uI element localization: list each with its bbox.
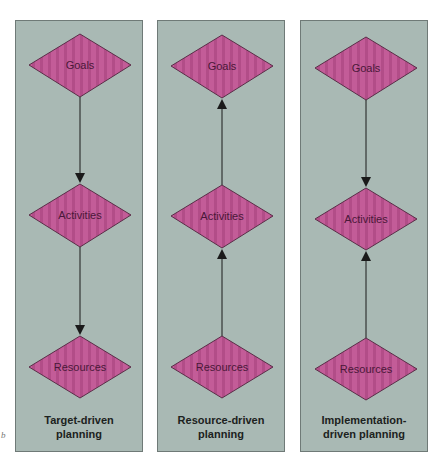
node-activities: Activities	[29, 209, 131, 222]
node-activities: Activities	[315, 213, 417, 226]
caption-line-1: Target-driven	[16, 413, 142, 427]
node-goals: Goals	[171, 60, 273, 73]
node-goals: Goals	[29, 59, 131, 72]
node-goals: Goals	[315, 62, 417, 75]
flow-graphic	[16, 21, 144, 453]
panel-caption: Target-driven planning	[16, 413, 142, 441]
caption-line-1: Implementation-	[301, 413, 427, 427]
panel-implementation-driven: Goals Activities Resources Implementatio…	[300, 20, 428, 452]
panel-resource-driven: Goals Activities Resources Resource-driv…	[157, 20, 285, 452]
caption-line-2: driven planning	[301, 427, 427, 441]
flow-graphic	[301, 21, 429, 453]
node-resources: Resources	[315, 363, 417, 376]
panel-caption: Resource-driven planning	[158, 413, 284, 441]
arrow-down-icon	[75, 325, 85, 335]
arrow-up-icon	[217, 249, 227, 259]
panel-caption: Implementation- driven planning	[301, 413, 427, 441]
arrow-up-icon	[361, 251, 371, 261]
node-activities: Activities	[171, 210, 273, 223]
figure-corner-mark: b	[1, 430, 6, 440]
panel-target-driven: Goals Activities Resources Target-driven…	[15, 20, 143, 452]
flow-graphic	[158, 21, 286, 453]
arrow-up-icon	[217, 99, 227, 109]
arrow-down-icon	[75, 173, 85, 183]
node-resources: Resources	[171, 361, 273, 374]
node-resources: Resources	[29, 361, 131, 374]
caption-line-2: planning	[16, 427, 142, 441]
caption-line-1: Resource-driven	[158, 413, 284, 427]
caption-line-2: planning	[158, 427, 284, 441]
arrow-down-icon	[361, 177, 371, 187]
